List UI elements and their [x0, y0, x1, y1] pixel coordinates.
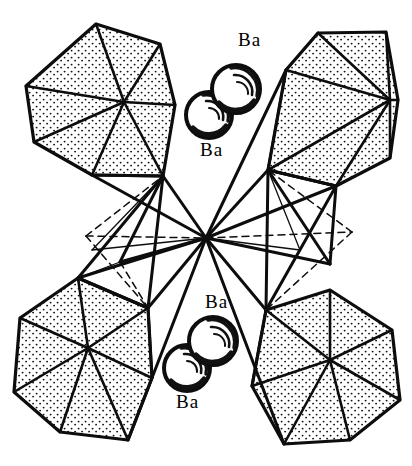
- structure-drawing: [0, 0, 412, 466]
- atom-label-ba-top-upper: Ba: [238, 30, 261, 49]
- crystal-structure-figure: Ba Ba Ba Ba: [0, 0, 412, 466]
- ba-sphere-3: [189, 317, 237, 365]
- polyhedron-top-right: [268, 32, 398, 186]
- atom-label-ba-bottom-lower: Ba: [176, 392, 199, 411]
- polyhedron-top-left: [26, 24, 175, 176]
- ba-sphere-1: [212, 65, 260, 113]
- central-vertex-marker: [203, 235, 209, 241]
- atom-label-ba-top-lower: Ba: [200, 140, 223, 159]
- atom-label-ba-bottom-upper: Ba: [205, 292, 228, 311]
